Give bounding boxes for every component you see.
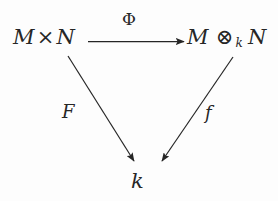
tensor-subscript-k: k bbox=[236, 36, 243, 50]
edge-label-F: F bbox=[62, 103, 75, 121]
node-source-left: M bbox=[13, 25, 35, 49]
commutative-diagram-canvas: M×N M⊗kN k Φ F f bbox=[0, 0, 278, 201]
node-target-M-tensor-k-N: M⊗kN bbox=[187, 27, 267, 49]
node-source-right: N bbox=[57, 25, 76, 49]
cross-product-symbol: × bbox=[35, 25, 57, 49]
arrow-f bbox=[162, 57, 233, 161]
node-target-right: N bbox=[248, 25, 267, 49]
arrow-F bbox=[68, 56, 134, 161]
node-source-M-times-N: M×N bbox=[13, 27, 75, 48]
node-target-left: M bbox=[187, 25, 214, 49]
edge-label-phi: Φ bbox=[122, 11, 136, 28]
edge-label-f: f bbox=[205, 104, 212, 122]
node-base-k: k bbox=[131, 171, 144, 192]
tensor-product-symbol: ⊗ bbox=[214, 25, 236, 49]
